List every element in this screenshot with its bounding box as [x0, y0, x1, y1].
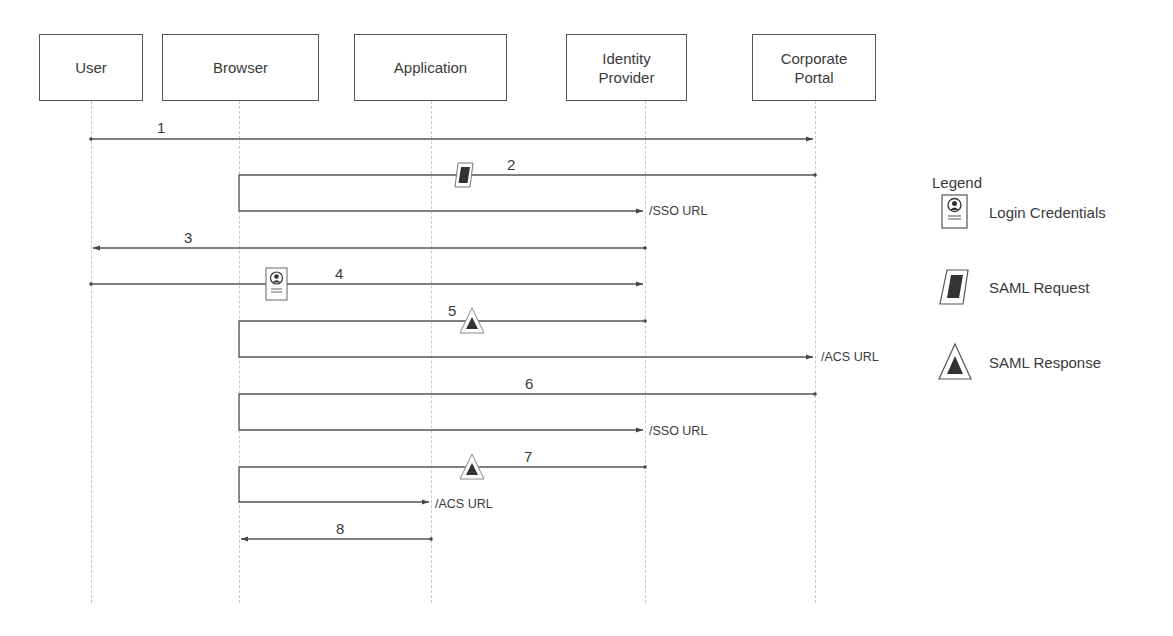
message-5-endpoint: /ACS URL — [821, 350, 879, 364]
message-7-endpoint: /ACS URL — [435, 497, 493, 511]
legend-item-saml-response: SAML Response — [938, 340, 1101, 384]
message-2-arrow — [239, 173, 817, 211]
message-5-number: 5 — [448, 302, 456, 319]
saml-response-icon — [938, 340, 972, 384]
message-6-endpoint: /SSO URL — [649, 424, 707, 438]
message-6-arrow — [239, 392, 817, 430]
message-5-arrow — [239, 319, 813, 357]
message-arrows — [0, 0, 1173, 636]
login-credentials-icon — [938, 190, 972, 234]
message-1-arrow — [89, 137, 813, 141]
legend-title: Legend — [932, 174, 982, 191]
message-2-number: 2 — [507, 156, 515, 173]
message-3-number: 3 — [184, 229, 192, 246]
legend-item-saml-request: SAML Request — [938, 265, 1089, 309]
legend-label-login-credentials: Login Credentials — [989, 204, 1106, 221]
message-4-arrow — [89, 282, 643, 286]
saml-request-icon — [455, 163, 473, 187]
message-8-number: 8 — [336, 520, 344, 537]
message-1-number: 1 — [157, 119, 165, 136]
saml-request-icon — [938, 265, 972, 309]
legend-label-saml-response: SAML Response — [989, 354, 1101, 371]
message-7-number: 7 — [524, 448, 532, 465]
legend-item-login-credentials: Login Credentials — [938, 190, 1106, 234]
message-3-arrow — [93, 246, 647, 250]
message-6-number: 6 — [525, 375, 533, 392]
message-4-number: 4 — [335, 265, 343, 282]
legend-label-saml-request: SAML Request — [989, 279, 1089, 296]
message-8-arrow — [241, 537, 433, 541]
login-credentials-icon — [266, 268, 287, 300]
message-2-endpoint: /SSO URL — [649, 204, 707, 218]
